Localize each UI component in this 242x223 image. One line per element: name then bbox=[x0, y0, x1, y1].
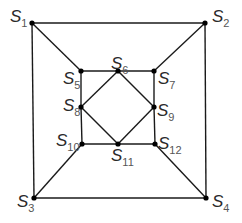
node-label-letter: S bbox=[212, 192, 223, 211]
node-label-subscript: 10 bbox=[67, 141, 79, 153]
node-label-letter: S bbox=[17, 192, 28, 211]
node-s9 bbox=[151, 104, 156, 109]
edge-s3-s1 bbox=[32, 23, 34, 198]
node-label-letter: S bbox=[10, 7, 21, 26]
edge-s9-s11 bbox=[118, 107, 154, 144]
node-s10 bbox=[79, 141, 84, 146]
node-label-subscript: 3 bbox=[28, 202, 34, 214]
node-label-s10: S10 bbox=[56, 132, 80, 149]
node-label-s1: S1 bbox=[10, 8, 27, 25]
node-s4 bbox=[203, 195, 208, 200]
edge-s2-s4 bbox=[205, 23, 206, 198]
node-label-s2: S2 bbox=[212, 8, 229, 25]
edge-s1-s5 bbox=[32, 23, 81, 71]
node-label-s6: S6 bbox=[111, 55, 128, 72]
node-label-letter: S bbox=[212, 7, 223, 26]
node-label-subscript: 4 bbox=[223, 202, 229, 214]
node-s7 bbox=[151, 68, 156, 73]
node-label-letter: S bbox=[111, 146, 122, 165]
node-label-letter: S bbox=[56, 131, 67, 150]
edge-s11-s8 bbox=[81, 107, 118, 144]
node-label-subscript: 6 bbox=[122, 64, 128, 76]
node-label-letter: S bbox=[157, 101, 168, 120]
node-label-subscript: 1 bbox=[21, 17, 27, 29]
node-label-subscript: 7 bbox=[169, 79, 175, 91]
edge-s6-s9 bbox=[118, 71, 154, 107]
node-label-subscript: 12 bbox=[169, 144, 181, 156]
edge-s2-s7 bbox=[154, 23, 205, 71]
node-label-letter: S bbox=[63, 69, 74, 88]
node-label-letter: S bbox=[63, 96, 74, 115]
edge-s9-s12 bbox=[154, 107, 155, 144]
graph-edges bbox=[32, 23, 206, 198]
node-label-subscript: 11 bbox=[122, 156, 133, 168]
node-s2 bbox=[202, 20, 207, 25]
graph-diagram bbox=[0, 0, 242, 223]
node-label-s9: S9 bbox=[157, 102, 174, 119]
node-label-s8: S8 bbox=[63, 97, 80, 114]
node-label-s4: S4 bbox=[212, 193, 229, 210]
node-label-s5: S5 bbox=[63, 70, 80, 87]
node-s1 bbox=[29, 20, 34, 25]
node-label-subscript: 9 bbox=[168, 111, 174, 123]
node-s12 bbox=[152, 141, 157, 146]
node-label-letter: S bbox=[158, 69, 169, 88]
node-label-s11: S11 bbox=[111, 147, 134, 164]
node-label-s3: S3 bbox=[17, 193, 34, 210]
node-label-subscript: 2 bbox=[223, 17, 229, 29]
node-label-s7: S7 bbox=[158, 70, 175, 87]
edge-s8-s6 bbox=[81, 71, 118, 107]
node-label-letter: S bbox=[111, 54, 122, 73]
node-label-subscript: 5 bbox=[74, 79, 80, 91]
node-label-letter: S bbox=[158, 134, 169, 153]
node-label-s12: S12 bbox=[158, 135, 182, 152]
edge-s10-s8 bbox=[81, 107, 82, 144]
node-label-subscript: 8 bbox=[74, 106, 80, 118]
